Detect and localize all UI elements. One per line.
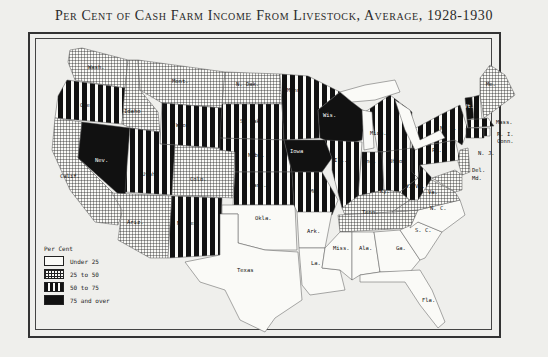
state-nmex <box>168 196 222 258</box>
legend-label: 75 and over <box>70 297 110 304</box>
label-mo: Mo. <box>310 188 320 194</box>
label-texas: Texas <box>237 267 254 273</box>
map-legend: Per Cent Under 25 25 to 50 50 to 75 75 a… <box>44 245 110 307</box>
label-ky: Ky. <box>380 188 390 195</box>
label-va: Va. <box>428 189 438 195</box>
label-wis: Wis. <box>323 112 336 118</box>
label-mont: Mont. <box>172 78 189 84</box>
solid-swatch-icon <box>44 295 64 305</box>
label-sc: S. C. <box>415 227 432 233</box>
label-ri: R. I. <box>497 131 514 137</box>
state-iowa <box>284 140 332 172</box>
label-nc: N. C. <box>430 205 447 211</box>
legend-item-25-to-50: 25 to 50 <box>44 268 110 280</box>
label-wva: W. Va. <box>405 183 425 189</box>
state-conn <box>466 128 484 138</box>
label-okla: Okla. <box>255 215 272 221</box>
label-wyo: Wyo. <box>176 122 189 129</box>
crosshatch-swatch-icon <box>44 269 64 279</box>
label-minn: Minn. <box>287 87 304 93</box>
label-calif: Calif. <box>60 173 80 179</box>
label-ohio: Ohio <box>389 158 402 164</box>
label-tenn: Tenn. <box>362 209 379 215</box>
blank-swatch-icon <box>44 256 64 266</box>
state-mass <box>467 118 494 128</box>
stripe-swatch-icon <box>44 282 64 292</box>
label-ariz: Ariz. <box>127 219 144 225</box>
label-ga: Ga. <box>396 245 406 251</box>
label-ark: Ark. <box>307 228 320 234</box>
label-nj: N. J. <box>478 150 495 156</box>
state-me <box>480 65 515 118</box>
state-ndak <box>222 72 282 104</box>
legend-item-50-to-75: 50 to 75 <box>44 281 110 293</box>
label-iowa: Iowa <box>290 148 303 154</box>
label-ny: N. Y. <box>440 125 457 131</box>
legend-item-75-and-over: 75 and over <box>44 294 110 306</box>
label-miss: Miss. <box>333 245 350 251</box>
state-ri <box>484 128 490 136</box>
label-la: La. <box>311 260 321 266</box>
state-nj <box>458 148 470 175</box>
legend-label: 50 to 75 <box>70 284 99 291</box>
state-kans <box>233 172 294 205</box>
label-mich: Mich. <box>370 130 387 136</box>
label-ala: Ala. <box>359 245 372 251</box>
label-ore: Ore. <box>80 102 93 108</box>
state-mont <box>138 60 225 108</box>
legend-item-under-25: Under 25 <box>44 255 110 267</box>
label-pa: Pa. <box>432 147 442 153</box>
label-ndak: N. Dak. <box>236 81 259 87</box>
legend-label: Under 25 <box>70 258 99 265</box>
label-ill: Ill. <box>334 157 347 163</box>
state-wyo <box>160 103 222 148</box>
label-colo: Colo. <box>190 176 207 182</box>
state-colo <box>172 145 235 198</box>
label-idaho: Idaho <box>124 108 141 114</box>
label-ind: Ind. <box>363 158 376 164</box>
label-nebr: Nebr. <box>248 152 265 158</box>
label-fla: Fla. <box>422 297 435 303</box>
state-ariz <box>112 193 172 258</box>
label-nmex: N. Mex. <box>177 220 200 226</box>
label-utah: Utah <box>142 171 155 177</box>
label-md: Md. <box>472 175 482 181</box>
label-conn: Conn. <box>497 138 514 144</box>
label-me: Me. <box>486 81 496 87</box>
label-nev: Nev. <box>95 157 108 163</box>
label-mass: Mass. <box>496 119 513 125</box>
label-del: Del. <box>472 167 485 173</box>
label-vt: Vt. <box>464 103 474 109</box>
label-wash: Wash. <box>88 64 105 70</box>
label-kans: Kans. <box>250 182 267 188</box>
label-sdak: S. Dak. <box>240 118 263 124</box>
legend-label: 25 to 50 <box>70 271 99 278</box>
legend-title: Per Cent <box>44 245 110 252</box>
